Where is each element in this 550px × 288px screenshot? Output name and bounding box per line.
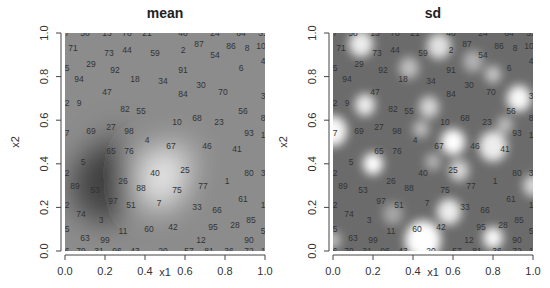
point-label: 95: [208, 222, 218, 232]
point-label: 18: [398, 74, 408, 84]
point-label: 86: [226, 41, 236, 51]
x-tick-label: 0.2: [365, 265, 380, 277]
point-label: 97: [376, 196, 386, 206]
point-label: 85: [246, 215, 256, 225]
point-label: 2: [65, 98, 70, 108]
point-label: 12: [464, 235, 474, 245]
point-label: 94: [74, 74, 84, 84]
point-label: 27: [374, 122, 384, 132]
point-label: 9: [77, 98, 82, 108]
point-label: 71: [336, 43, 346, 53]
point-label: 9: [345, 98, 350, 108]
point-label: 60: [412, 224, 422, 234]
point-label: 59: [150, 48, 160, 58]
point-label: 7: [157, 198, 162, 208]
y-axis-label: x2: [277, 136, 289, 148]
point-label: 99: [368, 235, 378, 245]
point-label: 44: [122, 45, 132, 55]
point-label: 47: [102, 87, 112, 97]
point-label: 46: [202, 141, 212, 151]
point-label: 69: [354, 126, 364, 136]
point-label: 5: [81, 157, 86, 167]
x-tick-label: 0.6: [177, 265, 192, 277]
point-label: 95: [476, 222, 486, 232]
y-tick-label: 0.4: [306, 156, 318, 171]
point-label: 44: [390, 45, 400, 55]
point-label: 77: [198, 181, 208, 191]
point-label: 63: [80, 233, 90, 243]
heatmap-bright-region: [437, 199, 461, 225]
point-label: 2: [333, 200, 338, 210]
y-tick-label: 0.2: [38, 200, 50, 215]
point-label: 41: [232, 144, 242, 154]
point-label: 7: [333, 28, 338, 38]
point-label: 3: [529, 91, 534, 101]
point-label: 7: [333, 128, 338, 138]
point-label: 42: [168, 222, 178, 232]
x-tick-label: 0.4: [137, 265, 152, 277]
y-tick-label: 1.0: [38, 25, 50, 40]
point-label: 70: [218, 87, 228, 97]
point-label: 12: [196, 235, 206, 245]
point-label: 3: [529, 168, 534, 178]
point-label: 2: [65, 168, 70, 178]
y-tick-label: 1.0: [306, 25, 318, 40]
point-label: 5: [65, 63, 70, 73]
heatmap-bright-region: [497, 116, 513, 133]
y-tick-label: 0.0: [38, 243, 50, 258]
point-label: 7: [425, 198, 430, 208]
point-label: 61: [506, 194, 516, 204]
point-label: 56: [238, 106, 248, 116]
point-label: 3: [261, 91, 266, 101]
point-label: 5: [349, 157, 354, 167]
point-label: 23: [482, 117, 492, 127]
point-label: 53: [90, 185, 100, 195]
y-tick-label: 0.6: [306, 113, 318, 128]
point-label: 34: [426, 76, 436, 86]
point-label: 80: [244, 168, 254, 178]
point-label: 6: [507, 63, 512, 73]
x-tick-label: 0.0: [325, 265, 340, 277]
y-axis-label: x2: [9, 136, 21, 148]
point-label: 61: [238, 194, 248, 204]
point-label: 73: [372, 48, 382, 58]
point-label: 4: [529, 56, 534, 66]
point-label: 8: [245, 43, 250, 53]
point-label: 51: [394, 200, 404, 210]
point-label: 7: [65, 28, 70, 38]
x-axis-label: x1: [159, 266, 171, 278]
point-label: 40: [150, 168, 160, 178]
point-label: 76: [392, 146, 402, 156]
point-label: 7: [65, 128, 70, 138]
point-label: 66: [212, 205, 222, 215]
point-label: 51: [126, 200, 136, 210]
point-label: 85: [514, 215, 524, 225]
point-label: 98: [124, 126, 134, 136]
point-label: 77: [466, 181, 476, 191]
point-label: 87: [462, 39, 472, 49]
x-axis-label: x1: [427, 266, 439, 278]
point-label: 46: [470, 141, 480, 151]
point-label: 1: [225, 176, 230, 186]
y-tick-label: 0.8: [38, 69, 50, 84]
chart-canvas: 7581378214824643171734459287548681052992…: [0, 0, 550, 288]
point-label: 4: [145, 135, 150, 145]
point-label: 24: [210, 28, 220, 38]
point-label: 63: [348, 233, 358, 243]
point-label: 3: [99, 215, 104, 225]
point-label: 2: [181, 45, 186, 55]
point-label: 54: [478, 50, 488, 60]
point-label: 8: [261, 113, 266, 123]
y-tick-label: 0.4: [38, 156, 50, 171]
point-label: 5: [333, 63, 338, 73]
heatmap-bright-region: [485, 66, 501, 83]
point-label: 71: [68, 43, 78, 53]
point-label: 42: [436, 222, 446, 232]
chart-title: mean: [147, 5, 184, 21]
point-label: 30: [464, 80, 474, 90]
point-label: 89: [338, 181, 348, 191]
point-label: 53: [358, 185, 368, 195]
point-label: 13: [370, 28, 380, 38]
point-label: 21: [410, 28, 420, 38]
point-label: 84: [446, 89, 456, 99]
